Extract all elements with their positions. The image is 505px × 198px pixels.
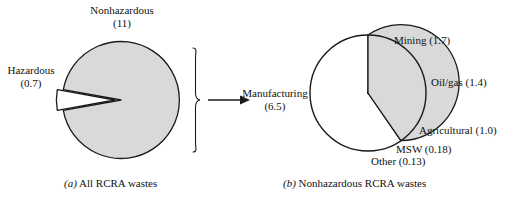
label-other: Other (0.13): [371, 155, 425, 168]
label-nonhazardous: Nonhazardous (11): [59, 4, 185, 29]
label-hazardous-name: Hazardous: [0, 64, 62, 77]
curly-brace-icon: [193, 48, 200, 152]
label-manufacturing: Manufacturing (6.5): [233, 87, 317, 112]
label-oil-gas: Oil/gas (1.4): [431, 76, 487, 89]
caption-panel-a-prefix: (a): [64, 177, 77, 189]
label-hazardous: Hazardous (0.7): [0, 64, 62, 89]
caption-panel-b-text: Nonhazardous RCRA wastes: [299, 177, 427, 189]
caption-panel-b-prefix: (b): [283, 177, 296, 189]
label-mining: Mining (1.7): [394, 34, 450, 47]
caption-panel-b: (b) Nonhazardous RCRA wastes: [283, 177, 426, 190]
caption-panel-a-text: All RCRA wastes: [79, 177, 157, 189]
label-nonhazardous-value: (11): [59, 17, 185, 30]
figure-rcra-wastes: Nonhazardous (11) Hazardous (0.7) Manufa…: [0, 0, 505, 198]
label-manufacturing-value: (6.5): [233, 100, 317, 113]
label-msw: MSW (0.18): [396, 143, 451, 156]
caption-panel-a: (a) All RCRA wastes: [64, 177, 157, 190]
label-manufacturing-name: Manufacturing: [233, 87, 317, 100]
pie-chart-all-rcra-wastes: [56, 42, 179, 159]
label-hazardous-value: (0.7): [0, 77, 62, 90]
label-nonhazardous-name: Nonhazardous: [59, 4, 185, 17]
label-agricultural: Agricultural (1.0): [419, 124, 497, 137]
